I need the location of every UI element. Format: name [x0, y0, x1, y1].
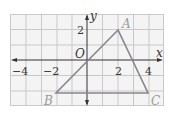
x-tick-neg2: −2 — [43, 65, 59, 78]
y-axis-label: y — [89, 9, 97, 23]
y-tick-2: 2 — [77, 24, 84, 37]
x-tick-neg4: −4 — [12, 65, 28, 78]
vertex-label-c: C — [151, 94, 160, 108]
vertex-label-a: A — [121, 17, 131, 31]
vertex-label-b: B — [43, 94, 53, 108]
origin-label: O — [75, 47, 85, 61]
coordinate-plane: x y O −4 −2 2 4 2 A B C — [0, 0, 173, 113]
x-axis-label: x — [156, 46, 163, 60]
x-tick-4: 4 — [145, 65, 152, 78]
x-tick-2: 2 — [115, 65, 122, 78]
